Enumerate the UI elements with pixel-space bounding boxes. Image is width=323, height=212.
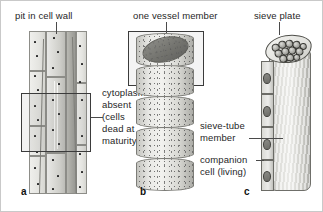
companion-cell-nucleus — [263, 106, 271, 117]
vessel-member-segment — [136, 96, 194, 128]
pit-texture — [137, 128, 193, 158]
leader-cytoplasm-absent — [91, 117, 103, 118]
panel-letter-c: c — [244, 186, 250, 197]
pit-texture — [137, 66, 193, 96]
label-companion-line-2: cell (living) — [200, 166, 246, 178]
panel-letter-b: b — [140, 186, 146, 197]
label-companion-line-1: companion — [200, 154, 247, 166]
panel-b-illustration — [134, 33, 196, 193]
vessel-member-segment — [136, 65, 194, 97]
label-cytoplasm-line-2: absent — [102, 99, 131, 111]
companion-cell-nucleus — [263, 73, 271, 84]
panel-c-illustration — [259, 33, 315, 193]
tracheid-cell — [46, 31, 66, 77]
label-one-vessel-member: one vessel member — [133, 10, 218, 22]
label-pit-in-cell-wall: pit in cell wall — [15, 10, 73, 22]
label-sieve-plate: sieve plate — [254, 10, 301, 22]
pit-texture — [137, 97, 193, 127]
leader-companion-cell — [256, 160, 264, 161]
leader-pit-in-cell-wall — [56, 22, 57, 34]
tracheid-cell — [76, 31, 87, 83]
label-sieve-tube-line-2: member — [200, 132, 235, 144]
leader-sieve-plate — [279, 22, 280, 35]
companion-cell-nucleus — [263, 171, 271, 182]
companion-cell-nucleus — [263, 139, 271, 150]
tracheid-cell — [29, 156, 46, 194]
label-sieve-tube-line-1: sieve-tube — [200, 120, 245, 132]
sieve-tube-member-body — [269, 51, 311, 191]
sieve-pore — [293, 53, 301, 61]
leader-one-vessel-member — [166, 22, 167, 33]
tracheid-cell — [76, 145, 87, 194]
vessel-member-segment — [136, 127, 194, 159]
panel-a-highlight-box — [21, 93, 91, 152]
panel-letter-a: a — [21, 186, 27, 197]
label-cytoplasm-line-3: (cells — [102, 111, 125, 123]
label-cytoplasm-line-4: dead at — [102, 123, 134, 135]
botany-figure-xylem-phloem: pit in cell wall cytoplasm absent (cells… — [0, 0, 323, 212]
leader-sieve-tube-member — [249, 138, 283, 139]
tracheid-cell — [46, 153, 66, 194]
